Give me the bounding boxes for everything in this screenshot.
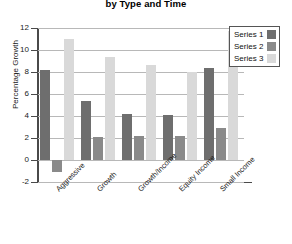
bar bbox=[81, 101, 91, 160]
legend-swatch-series-3 bbox=[267, 54, 276, 63]
legend-item: Series 3 bbox=[234, 53, 276, 64]
chart-legend: Series 1 Series 2 Series 3 bbox=[229, 26, 280, 67]
chart-title: by Type and Time bbox=[0, 0, 292, 9]
legend-item: Series 2 bbox=[234, 41, 276, 52]
y-tick-label: 6 bbox=[0, 90, 29, 98]
bar bbox=[146, 65, 156, 160]
legend-item-label: Series 2 bbox=[234, 42, 263, 51]
bar bbox=[187, 72, 197, 160]
y-tick-label: -2 bbox=[0, 178, 29, 186]
bar bbox=[64, 39, 74, 160]
bar bbox=[93, 137, 103, 160]
y-tick-label: 2 bbox=[0, 134, 29, 142]
bar bbox=[204, 68, 214, 160]
bar bbox=[134, 136, 144, 160]
y-tick-label: 0 bbox=[0, 156, 29, 164]
bar bbox=[122, 114, 132, 160]
legend-swatch-series-2 bbox=[267, 42, 276, 51]
legend-item-label: Series 3 bbox=[234, 54, 263, 63]
legend-item-label: Series 1 bbox=[234, 30, 263, 39]
bar bbox=[40, 70, 50, 160]
y-tick-label: 12 bbox=[0, 24, 29, 32]
gridline bbox=[38, 28, 244, 29]
y-tick-label: 4 bbox=[0, 112, 29, 120]
legend-swatch-series-1 bbox=[267, 30, 276, 39]
y-tick-label: 8 bbox=[0, 68, 29, 76]
legend-item: Series 1 bbox=[234, 29, 276, 40]
bar bbox=[216, 128, 226, 160]
bar bbox=[105, 57, 115, 160]
y-tick-label: 10 bbox=[0, 46, 29, 54]
bar-chart: by Type and Time Percentage Growth 12108… bbox=[0, 0, 292, 244]
bar bbox=[52, 160, 62, 172]
